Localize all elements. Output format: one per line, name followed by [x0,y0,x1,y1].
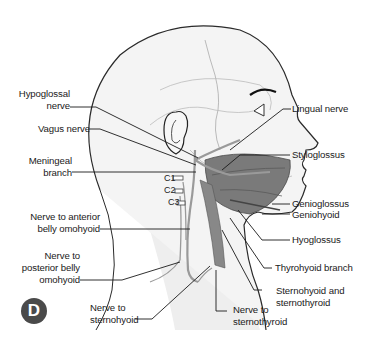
label-c2: C2 [164,185,176,195]
label-thyrohyoid-branch: Thyrohyoid branch [275,262,353,274]
label-hypoglossal-nerve: Hypoglossal nerve [12,88,70,112]
label-geniohyoid: Geniohyoid [292,209,340,221]
label-nerve-posterior-belly-omohyoid: Nerve to posterior belly omohyoid [6,250,80,286]
label-meningeal-branch: Meningeal branch [20,155,72,179]
label-vagus-nerve: Vagus nerve [20,123,90,135]
label-c1: C1 [164,173,176,183]
label-styloglossus: Styloglossus [292,149,345,161]
panel-letter-badge: D [21,298,47,324]
label-c3: C3 [168,197,180,207]
label-nerve-to-sternohyoid: Nerve to sternohyoid [90,302,139,326]
label-nerve-to-sternothyroid: Nerve to sternothyroid [233,304,287,328]
label-lingual-nerve: Lingual nerve [292,103,348,115]
anatomy-figure: C1 C2 C3 Hypoglossal nerve Vagus nerve M… [0,0,366,351]
label-nerve-anterior-belly-omohyoid: Nerve to anterior belly omohyoid [6,211,100,235]
label-hyoglossus: Hyoglossus [292,234,341,246]
